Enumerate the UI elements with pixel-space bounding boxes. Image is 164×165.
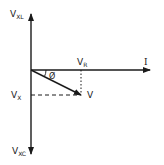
- vr-label: VR: [77, 58, 87, 68]
- current-label: I: [144, 58, 148, 67]
- phase-angle-label: Ø: [49, 73, 55, 81]
- phasor-drawing: [0, 0, 164, 165]
- voltage-label: V: [87, 91, 93, 100]
- vxc-label: VXC: [12, 147, 26, 157]
- voltage-phasor-arrow: [31, 70, 81, 95]
- vx-label: VX: [11, 91, 21, 101]
- phase-angle-arc: [44, 70, 46, 77]
- phasor-diagram: VXL VR I Ø V VX VXC: [0, 0, 164, 165]
- vxl-label: VXL: [10, 10, 24, 20]
